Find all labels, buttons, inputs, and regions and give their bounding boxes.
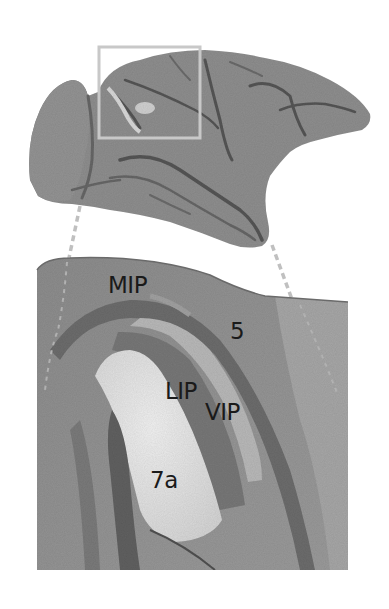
figure-canvas [0,0,389,609]
brain-figure: MIP 5 LIP VIP 7a [0,0,389,609]
label-area-LIP: LIP [165,380,197,403]
label-area-5: 5 [230,320,244,343]
label-area-7a: 7a [150,469,178,492]
inset-panel [37,255,348,571]
label-area-VIP: VIP [205,401,240,424]
label-area-MIP: MIP [108,274,147,297]
